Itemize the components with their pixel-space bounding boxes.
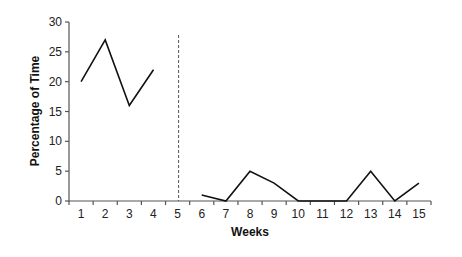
x-tick-label: 13 [364,207,378,221]
y-tick-label: 25 [49,45,63,59]
x-axis: 123456789101112131415 [69,201,431,221]
x-tick-label: 12 [340,207,354,221]
y-tick-label: 15 [49,105,63,119]
x-tick-label: 2 [102,207,109,221]
y-tick-label: 5 [55,164,62,178]
data-series [81,40,419,201]
x-tick-label: 6 [198,207,205,221]
y-tick-label: 0 [55,194,62,208]
y-tick-label: 20 [49,75,63,89]
x-tick-label: 14 [388,207,402,221]
x-tick-label: 7 [223,207,230,221]
x-tick-label: 9 [271,207,278,221]
series-line [81,40,153,106]
y-tick-label: 30 [49,15,63,29]
x-tick-label: 15 [412,207,426,221]
x-tick-label: 10 [292,207,306,221]
y-tick-label: 10 [49,134,63,148]
x-tick-label: 1 [78,207,85,221]
x-tick-label: 3 [126,207,133,221]
x-tick-label: 11 [316,207,329,221]
y-axis: 051015202530 [49,15,69,208]
x-tick-label: 8 [247,207,254,221]
line-chart: 051015202530 123456789101112131415 Weeks… [0,0,462,257]
x-tick-label: 5 [174,207,181,221]
series-line [202,171,419,201]
x-axis-title: Weeks [231,225,269,239]
x-tick-label: 4 [150,207,157,221]
y-axis-title: Percentage of Time [28,55,42,166]
